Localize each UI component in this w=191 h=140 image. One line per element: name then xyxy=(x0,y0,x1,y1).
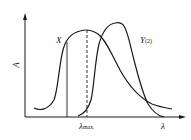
absorption-spectrum-chart xyxy=(0,0,191,140)
x-axis-label: λ xyxy=(161,121,165,131)
curve-x-label: X xyxy=(56,35,62,45)
curve-y2-label-sub: (2) xyxy=(145,38,152,44)
curve-y2-label: Y(2) xyxy=(140,35,152,45)
lambda-max-label: λmax xyxy=(79,121,93,131)
x-axis-arrow-icon xyxy=(179,115,186,119)
y-axis-label: A xyxy=(11,62,21,68)
y-axis-arrow-icon xyxy=(23,13,27,20)
lambda-max-label-sub: max xyxy=(83,124,93,130)
